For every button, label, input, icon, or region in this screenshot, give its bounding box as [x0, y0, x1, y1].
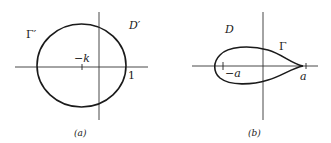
diagram-canvas: −k 1 Γ′ D′ (a) −a a Γ D (b) [0, 0, 331, 143]
label-one: 1 [128, 69, 135, 82]
label-minus-k: −k [74, 52, 90, 65]
caption-a: (a) [74, 128, 87, 138]
label-gamma: Γ [279, 40, 287, 53]
circle-gamma-prime [37, 24, 126, 107]
label-minus-a: −a [225, 67, 241, 80]
label-domain-d-prime: D′ [128, 19, 141, 32]
label-a: a [300, 70, 307, 83]
figure-b: −a a Γ D (b) [192, 12, 318, 138]
label-gamma-prime: Γ′ [26, 28, 37, 41]
caption-b: (b) [248, 128, 261, 138]
figure-a: −k 1 Γ′ D′ (a) [15, 12, 148, 138]
label-domain-d: D [224, 23, 234, 36]
